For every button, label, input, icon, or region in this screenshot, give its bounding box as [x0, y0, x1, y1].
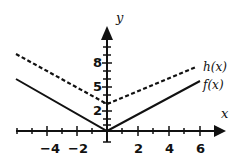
x-axis-arrow-icon [214, 125, 226, 137]
x-tick-label: 6 [196, 141, 205, 156]
x-axis-label: x [221, 106, 229, 121]
y-tick-label: 2 [93, 103, 102, 118]
x-tick-label: 2 [134, 141, 143, 156]
y-tick-label: 5 [93, 79, 102, 94]
x-tick-label: 4 [165, 141, 174, 156]
h-label: h(x) [203, 60, 227, 74]
y-axis-label: y [115, 10, 124, 25]
x-tick-label: −2 [68, 141, 88, 156]
y-tick-label: 8 [93, 55, 102, 70]
x-axis [16, 125, 226, 137]
function-graph: y x h(x) f(x) −4 −2 2 4 6 8 5 2 [0, 0, 238, 164]
y-axis [101, 26, 113, 142]
f-label: f(x) [202, 78, 224, 92]
y-axis-arrow-icon [101, 26, 113, 40]
x-tick-label: −4 [40, 141, 60, 156]
